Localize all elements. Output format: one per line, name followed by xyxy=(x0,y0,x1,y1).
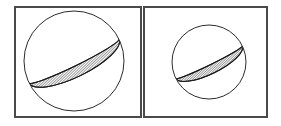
sphere-band-diagram xyxy=(0,0,281,126)
panel-right xyxy=(144,7,267,117)
figure-container xyxy=(0,0,281,126)
sphere-right-outline xyxy=(172,25,246,99)
panel-left xyxy=(15,7,141,117)
sphere-left-outline xyxy=(24,11,124,111)
